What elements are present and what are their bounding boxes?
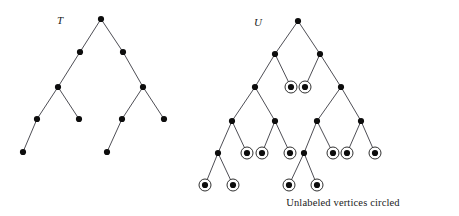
tree-vertex: [20, 149, 26, 155]
figure-caption: Unlabeled vertices circled: [286, 197, 400, 208]
tree-vertex: [317, 51, 323, 57]
tree-edge: [23, 119, 37, 152]
tree-edge: [37, 87, 58, 119]
tree-vertex: [272, 118, 278, 124]
tree-edge: [58, 52, 80, 87]
tree-vertex: [338, 84, 344, 90]
tree-vertex-unlabeled: [314, 182, 320, 188]
tree-vertex: [272, 51, 278, 57]
tree-vertex-unlabeled: [259, 150, 265, 156]
tree-vertex-unlabeled: [288, 84, 294, 90]
tree-edge: [101, 19, 123, 52]
tree-vertex-unlabeled: [244, 150, 250, 156]
tree-figure: T U Unlabeled vertices circled: [0, 0, 459, 216]
tree-edge: [341, 87, 361, 121]
tree-vertex: [55, 84, 61, 90]
tree-vertex: [229, 118, 235, 124]
tree-edge: [58, 87, 79, 119]
tree-vertex-unlabeled: [286, 182, 292, 188]
tree-vertex: [301, 150, 307, 156]
tree-vertex: [358, 118, 364, 124]
tree-U: [199, 18, 381, 191]
tree-edge: [143, 87, 164, 119]
tree-U-nodes: [199, 18, 381, 191]
tree-vertex: [98, 16, 104, 22]
tree-vertex-unlabeled: [372, 150, 378, 156]
tree-edge: [320, 54, 341, 87]
tree-vertex: [314, 118, 320, 124]
tree-U-edges: [205, 21, 375, 185]
tree-label-t: T: [57, 14, 63, 26]
tree-vertex: [161, 116, 167, 122]
tree-vertex: [140, 84, 146, 90]
tree-edge: [255, 54, 275, 87]
tree-vertex-unlabeled: [230, 182, 236, 188]
tree-edge: [107, 119, 122, 152]
tree-vertex: [77, 49, 83, 55]
tree-edge: [304, 121, 317, 153]
tree-vertex: [119, 116, 125, 122]
tree-vertex-unlabeled: [302, 84, 308, 90]
tree-edge: [317, 87, 341, 121]
tree-T: [20, 16, 167, 155]
tree-vertex-unlabeled: [202, 182, 208, 188]
tree-edge: [298, 21, 320, 54]
tree-vertex: [215, 150, 221, 156]
tree-T-nodes: [20, 16, 167, 155]
tree-vertex: [76, 116, 82, 122]
tree-edge: [218, 121, 232, 153]
tree-diagram-canvas: [0, 0, 459, 216]
tree-vertex: [34, 116, 40, 122]
tree-vertex-unlabeled: [287, 150, 293, 156]
tree-edge: [275, 21, 298, 54]
tree-vertex-unlabeled: [330, 150, 336, 156]
tree-vertex: [104, 149, 110, 155]
tree-edge: [123, 52, 143, 87]
tree-vertex-unlabeled: [344, 150, 350, 156]
tree-vertex: [120, 49, 126, 55]
tree-label-u: U: [254, 16, 262, 28]
tree-edge: [255, 87, 275, 121]
tree-vertex: [295, 18, 301, 24]
tree-edge: [232, 87, 255, 121]
tree-edge: [122, 87, 143, 119]
tree-vertex: [252, 84, 258, 90]
tree-edge: [80, 19, 101, 52]
